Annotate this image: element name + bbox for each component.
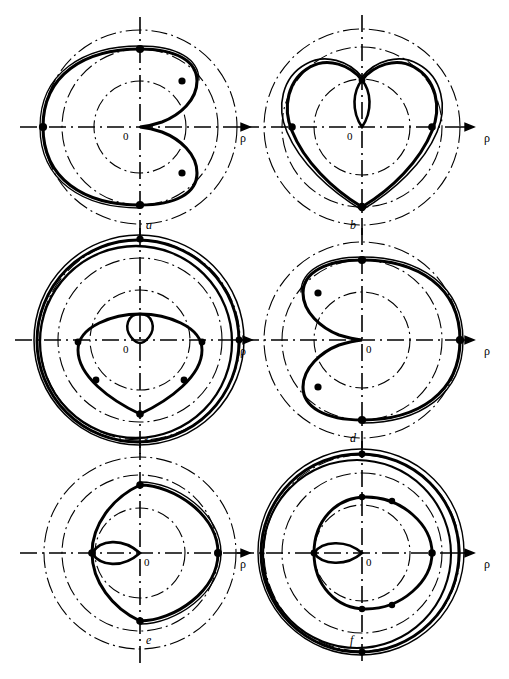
marker-point xyxy=(389,498,395,504)
marker-point xyxy=(178,77,185,84)
marker-point xyxy=(136,201,144,209)
marker-point xyxy=(359,649,366,656)
marker-point xyxy=(358,256,366,264)
panel-e-plot xyxy=(0,426,260,679)
curve-outer-pass-2 xyxy=(263,460,451,648)
marker-point xyxy=(359,494,365,500)
marker-point xyxy=(181,377,188,384)
marker-point xyxy=(359,77,366,84)
marker-point xyxy=(214,549,222,557)
origin-label: 0 xyxy=(347,131,353,142)
panel-d-plot xyxy=(222,213,509,453)
panel-a-plot xyxy=(0,0,260,240)
origin-label: 0 xyxy=(366,557,372,568)
panel-c: 0 ρ c xyxy=(0,213,260,453)
marker-point xyxy=(136,617,144,625)
marker-point xyxy=(358,416,366,424)
axis-arrow-horizontal xyxy=(456,123,474,130)
marker-point xyxy=(456,336,464,344)
marker-point xyxy=(288,123,296,131)
panel-a: 0 ρ a xyxy=(0,0,260,240)
panel-e: 0 ρ e xyxy=(0,426,260,679)
marker-point xyxy=(88,549,96,557)
marker-point xyxy=(359,606,365,612)
rho-axis-label: ρ xyxy=(484,345,490,357)
marker-point xyxy=(136,410,144,418)
marker-point xyxy=(136,481,144,489)
panel-d: 0 ρ d xyxy=(222,213,509,453)
marker-point xyxy=(311,550,318,557)
marker-point xyxy=(358,203,366,211)
marker-point xyxy=(314,383,321,390)
origin-label: 0 xyxy=(123,344,129,355)
origin-label: 0 xyxy=(144,557,150,568)
panel-c-plot xyxy=(0,213,260,453)
panel-f: 0 ρ f xyxy=(222,426,509,679)
panel-b-plot xyxy=(222,0,509,240)
panel-label-e: e xyxy=(146,634,151,646)
marker-point xyxy=(93,377,100,384)
panel-label-f: f xyxy=(350,634,353,646)
marker-point xyxy=(314,289,321,296)
rho-axis-label: ρ xyxy=(484,132,490,144)
figure-polar-diagrams: 0 ρ a 0 xyxy=(0,0,509,679)
panel-b: 0 ρ b xyxy=(222,0,509,240)
marker-point xyxy=(199,339,206,346)
marker-point xyxy=(178,169,185,176)
origin-label: 0 xyxy=(123,131,129,142)
marker-point xyxy=(389,602,395,608)
marker-point xyxy=(428,549,436,557)
marker-point xyxy=(136,235,143,242)
origin-label: 0 xyxy=(366,344,372,355)
marker-point xyxy=(75,339,82,346)
marker-point xyxy=(136,45,144,53)
marker-point xyxy=(359,451,366,458)
rho-axis-label: ρ xyxy=(484,558,490,570)
marker-point xyxy=(39,123,47,131)
marker-point xyxy=(428,123,436,131)
panel-f-plot xyxy=(222,426,509,679)
